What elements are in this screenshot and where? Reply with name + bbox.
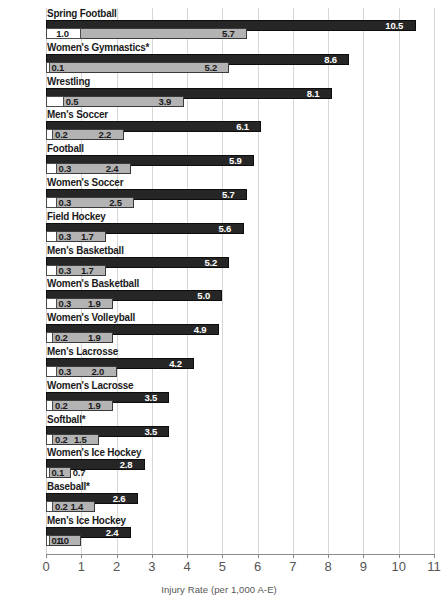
tick-mark-6 — [258, 554, 259, 558]
bar-group: 5.21.70.3 — [46, 257, 434, 277]
bar-group: 4.22.00.3 — [46, 358, 434, 378]
bar-value-label: 1.7 — [81, 265, 94, 276]
chart-row: Men's Lacrosse4.22.00.3 — [46, 346, 434, 380]
bar-gray — [46, 62, 229, 73]
bar-value-label: 0.3 — [59, 298, 72, 309]
bar-white — [46, 535, 50, 546]
bar-value-label: 1.7 — [81, 231, 94, 242]
chart-row: Women's Volleyball4.91.90.2 — [46, 312, 434, 346]
bar-group: 6.12.20.2 — [46, 121, 434, 141]
chart-row: Baseball*2.61.40.2 — [46, 481, 434, 515]
bar-group: 5.61.70.3 — [46, 223, 434, 243]
bar-value-label: 0.2 — [55, 501, 68, 512]
bar-value-label: 5.6 — [219, 223, 232, 234]
bar-value-label: 8.1 — [307, 88, 320, 99]
chart-row: Men's Ice Hockey2.41.00.1 — [46, 515, 434, 549]
bar-value-label: 2.6 — [113, 493, 126, 504]
category-label: Men's Ice Hockey — [47, 515, 126, 526]
bar-group: 8.13.90.5 — [46, 88, 434, 108]
bar-value-label: 4.9 — [194, 324, 207, 335]
bar-gray — [46, 434, 99, 445]
bar-value-label: 0.3 — [59, 197, 72, 208]
bar-value-label: 0.5 — [66, 96, 79, 107]
category-label: Women's Soccer — [47, 177, 123, 188]
bar-group: 10.55.71.0 — [46, 20, 434, 40]
chart-row: Field Hockey5.61.70.3 — [46, 211, 434, 245]
bar-value-label: 5.0 — [197, 290, 210, 301]
bar-group: 3.51.50.2 — [46, 426, 434, 446]
tick-label-11: 11 — [419, 559, 445, 574]
category-label: Wrestling — [47, 76, 90, 87]
bar-value-label: 2.4 — [106, 163, 119, 174]
chart-row: Softball*3.51.50.2 — [46, 414, 434, 448]
bar-value-label: 0.1 — [52, 535, 65, 546]
bar-value-label: 2.8 — [120, 459, 133, 470]
bar-group: 2.80.70.1 — [46, 459, 434, 479]
category-label: Women's Lacrosse — [47, 380, 133, 391]
bar-value-label: 0.7 — [73, 467, 86, 478]
chart-row: Women's Basketball5.01.90.3 — [46, 278, 434, 312]
bar-white — [46, 197, 57, 208]
chart-row: Women's Ice Hockey2.80.70.1 — [46, 447, 434, 481]
bar-white — [46, 96, 64, 107]
bar-value-label: 0.3 — [59, 231, 72, 242]
bar-value-label: 8.6 — [324, 54, 337, 65]
bar-value-label: 2.4 — [106, 527, 119, 538]
tick-mark-4 — [187, 554, 188, 558]
tick-mark-0 — [46, 554, 47, 558]
bar-value-label: 0.1 — [52, 467, 65, 478]
bar-white — [46, 298, 57, 309]
tick-label-2: 2 — [102, 559, 132, 574]
tick-mark-3 — [152, 554, 153, 558]
bar-value-label: 2.2 — [99, 129, 112, 140]
gridline-11 — [434, 8, 435, 554]
chart-row: Women's Soccer5.72.50.3 — [46, 177, 434, 211]
tick-mark-11 — [434, 554, 435, 558]
bar-white — [46, 163, 57, 174]
bar-value-label: 3.9 — [159, 96, 172, 107]
x-axis-line — [46, 554, 435, 555]
bar-group: 2.41.00.1 — [46, 527, 434, 547]
bar-value-label: 1.9 — [88, 298, 101, 309]
bar-value-label: 6.1 — [236, 121, 249, 132]
tick-label-3: 3 — [137, 559, 167, 574]
bar-value-label: 1.4 — [70, 501, 83, 512]
category-label: Baseball* — [47, 481, 90, 492]
bar-gray — [46, 366, 117, 377]
bar-value-label: 0.2 — [55, 129, 68, 140]
bar-group: 3.51.90.2 — [46, 392, 434, 412]
chart-row: Spring Football10.55.71.0 — [46, 8, 434, 42]
bar-white — [46, 501, 53, 512]
bar-value-label: 1.9 — [88, 400, 101, 411]
bar-value-label: 5.9 — [229, 155, 242, 166]
tick-mark-8 — [328, 554, 329, 558]
bar-value-label: 0.1 — [52, 62, 65, 73]
chart-row: Women's Gymnastics*8.65.20.1 — [46, 42, 434, 76]
bar-value-label: 1.0 — [56, 28, 69, 39]
bar-value-label: 4.2 — [169, 358, 182, 369]
bar-group: 5.01.90.3 — [46, 290, 434, 310]
tick-mark-9 — [363, 554, 364, 558]
tick-label-5: 5 — [207, 559, 237, 574]
category-label: Spring Football — [47, 8, 117, 19]
x-axis-title: Injury Rate (per 1,000 A-E) — [0, 584, 438, 595]
tick-label-0: 0 — [31, 559, 61, 574]
bar-value-label: 3.5 — [144, 426, 157, 437]
bar-white — [46, 265, 57, 276]
bar-group: 2.61.40.2 — [46, 493, 434, 513]
category-label: Women's Gymnastics* — [47, 42, 149, 53]
bar-white — [46, 129, 53, 140]
chart-row: Wrestling8.13.90.5 — [46, 76, 434, 110]
tick-label-6: 6 — [243, 559, 273, 574]
category-label: Women's Basketball — [47, 278, 139, 289]
category-label: Football — [47, 143, 84, 154]
chart-row: Football5.92.40.3 — [46, 143, 434, 177]
category-label: Men's Soccer — [47, 109, 108, 120]
chart-row: Men's Basketball5.21.70.3 — [46, 245, 434, 279]
bar-white — [46, 467, 50, 478]
bar-value-label: 5.7 — [222, 28, 235, 39]
tick-mark-2 — [117, 554, 118, 558]
bar-value-label: 0.2 — [55, 400, 68, 411]
bar-white — [46, 231, 57, 242]
